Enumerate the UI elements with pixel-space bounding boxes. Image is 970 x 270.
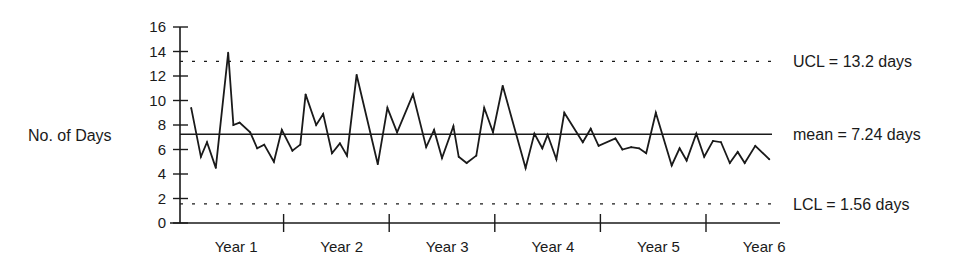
data-point (598, 145, 600, 147)
y-tick-label: 14 (149, 43, 166, 60)
data-point (729, 162, 731, 164)
data-point (556, 158, 558, 160)
data-point (534, 133, 536, 135)
series-line (191, 53, 769, 168)
y-axis: 0246810121416 (149, 18, 188, 231)
data-point (441, 157, 443, 159)
x-category-label: Year 5 (637, 238, 680, 255)
x-category-label: Year 1 (215, 238, 258, 255)
data-point (215, 167, 217, 169)
data-point (686, 160, 688, 162)
y-tick-label: 2 (158, 190, 166, 207)
data-point (239, 122, 241, 124)
data-point (630, 146, 632, 148)
y-tick-label: 10 (149, 92, 166, 109)
data-point (768, 158, 770, 160)
data-point (502, 85, 504, 87)
ucl-label: UCL = 13.2 days (793, 53, 912, 70)
data-point (712, 140, 714, 142)
mean-label: mean = 7.24 days (793, 126, 921, 143)
data-point (433, 129, 435, 131)
data-point (233, 124, 235, 126)
data-point (622, 149, 624, 151)
y-tick-label: 16 (149, 18, 166, 35)
data-point (377, 163, 379, 165)
y-axis-label: No. of Days (28, 127, 112, 144)
data-point (754, 145, 756, 147)
data-point (200, 156, 202, 158)
data-point (547, 134, 549, 136)
data-point (190, 107, 192, 109)
y-tick-label: 4 (158, 165, 166, 182)
y-tick-label: 12 (149, 67, 166, 84)
data-point (679, 147, 681, 149)
data-point (466, 162, 468, 164)
data-point (458, 156, 460, 158)
data-point (322, 113, 324, 115)
data-point (703, 156, 705, 158)
data-point (331, 152, 333, 154)
x-category-label: Year 6 (743, 238, 786, 255)
data-point (582, 141, 584, 143)
data-point (315, 124, 317, 126)
data-point (475, 155, 477, 157)
data-point (339, 142, 341, 144)
reference-lines: UCL = 13.2 daysmean = 7.24 daysLCL = 1.5… (180, 53, 921, 213)
series-group (190, 52, 770, 169)
data-point (483, 107, 485, 109)
data-point (590, 128, 592, 130)
control-chart: No. of Days 0246810121416 Year 1Year 2Ye… (0, 0, 970, 270)
data-point (737, 151, 739, 153)
data-point (671, 165, 673, 167)
lcl-label: LCL = 1.56 days (793, 196, 909, 213)
data-point (614, 138, 616, 140)
x-axis: Year 1Year 2Year 3Year 4Year 5Year 6 (170, 214, 785, 255)
data-point (453, 125, 455, 127)
data-point (206, 141, 208, 143)
data-point (299, 144, 301, 146)
y-tick-label: 6 (158, 141, 166, 158)
data-point (356, 74, 358, 76)
data-point (525, 167, 527, 169)
data-point (387, 107, 389, 109)
data-point (720, 141, 722, 143)
data-point (541, 147, 543, 149)
data-point (412, 93, 414, 95)
data-point (563, 112, 565, 114)
data-point (695, 133, 697, 135)
data-point (292, 150, 294, 152)
y-tick-label: 0 (158, 214, 166, 231)
data-point (263, 144, 265, 146)
x-category-label: Year 4 (531, 238, 574, 255)
data-point (227, 52, 229, 54)
x-category-label: Year 3 (426, 238, 469, 255)
data-point (744, 162, 746, 164)
y-tick-label: 8 (158, 116, 166, 133)
data-point (249, 131, 251, 133)
data-point (655, 112, 657, 114)
data-point (256, 147, 258, 149)
data-point (638, 147, 640, 149)
x-category-label: Year 2 (320, 238, 363, 255)
data-point (273, 161, 275, 163)
data-point (346, 155, 348, 157)
data-point (492, 131, 494, 133)
data-point (396, 131, 398, 133)
data-point (425, 146, 427, 148)
data-point (305, 93, 307, 95)
data-point (281, 129, 283, 131)
data-point (645, 152, 647, 154)
